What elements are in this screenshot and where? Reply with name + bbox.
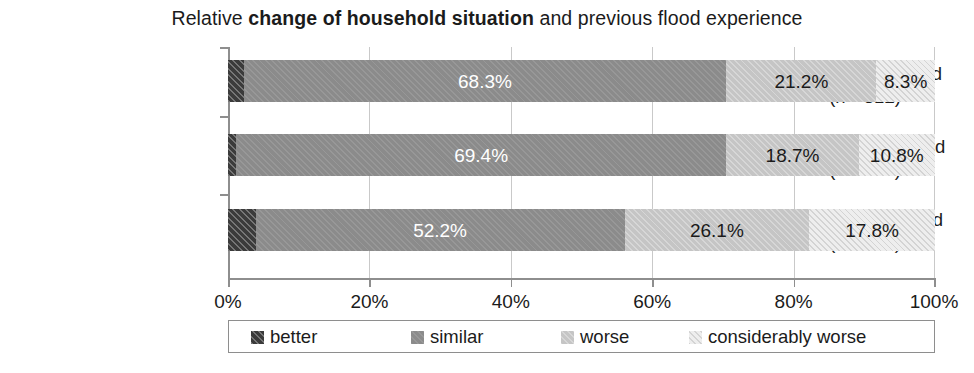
x-axis-tick-100 bbox=[934, 279, 936, 287]
x-axis-tick-40 bbox=[511, 279, 513, 287]
bar-3rd-flood[interactable]: 52.2% 26.1% 17.8% bbox=[228, 209, 935, 251]
y-axis-tick-top bbox=[220, 47, 228, 49]
x-axis-label-80: 80% bbox=[775, 291, 813, 313]
legend-item-worse[interactable]: worse bbox=[561, 328, 629, 347]
bar-2nd-flood[interactable]: 69.4% 18.7% 10.8% bbox=[228, 134, 935, 176]
chart-title-prefix: Relative bbox=[171, 7, 248, 29]
x-axis-line bbox=[228, 278, 936, 280]
legend-label-similar: similar bbox=[430, 328, 483, 347]
bar-3rd-flood-segment-worse[interactable]: 26.1% bbox=[625, 209, 810, 251]
legend-item-better[interactable]: better bbox=[251, 328, 317, 347]
legend-swatch-considerably-worse-icon bbox=[689, 331, 702, 344]
legend-item-similar[interactable]: similar bbox=[411, 328, 483, 347]
bar-2nd-flood-label-considerably-worse: 10.8% bbox=[870, 146, 924, 165]
bar-3rd-flood-segment-considerably-worse[interactable]: 17.8% bbox=[809, 209, 935, 251]
plot-area: 0% 20% 40% 60% 80% 100% 68.3% 21.2% 8.3%… bbox=[228, 47, 935, 279]
legend-swatch-worse-icon bbox=[561, 331, 574, 344]
legend-swatch-similar-icon bbox=[411, 331, 424, 344]
x-axis-label-40: 40% bbox=[492, 291, 530, 313]
bar-2nd-flood-label-similar: 69.4% bbox=[454, 146, 508, 165]
bar-1st-flood-label-similar: 68.3% bbox=[458, 72, 512, 91]
legend-swatch-better-icon bbox=[251, 331, 264, 344]
legend-label-better: better bbox=[270, 328, 317, 347]
x-axis-tick-0 bbox=[228, 279, 230, 287]
x-axis-label-20: 20% bbox=[350, 291, 388, 313]
bar-3rd-flood-label-considerably-worse: 17.8% bbox=[845, 221, 899, 240]
chart-title-suffix: and previous flood experience bbox=[534, 7, 803, 29]
legend-label-worse: worse bbox=[580, 328, 629, 347]
y-axis-tick-2 bbox=[220, 194, 228, 196]
bar-3rd-flood-label-worse: 26.1% bbox=[690, 221, 744, 240]
bar-2nd-flood-segment-considerably-worse[interactable]: 10.8% bbox=[859, 134, 935, 176]
legend-item-considerably-worse[interactable]: considerably worse bbox=[689, 328, 866, 347]
chart-title-emphasis: change of household situation bbox=[248, 7, 534, 29]
bar-1st-flood-label-considerably-worse: 8.3% bbox=[884, 72, 927, 91]
chart-legend: better similar worse considerably worse bbox=[228, 320, 935, 353]
bar-1st-flood-label-worse: 21.2% bbox=[774, 72, 828, 91]
x-axis-label-0: 0% bbox=[214, 291, 241, 313]
x-axis-tick-60 bbox=[652, 279, 654, 287]
x-axis-tick-80 bbox=[794, 279, 796, 287]
bar-2nd-flood-segment-worse[interactable]: 18.7% bbox=[726, 134, 858, 176]
legend-label-considerably-worse: considerably worse bbox=[708, 328, 866, 347]
x-axis-tick-20 bbox=[369, 279, 371, 287]
y-axis-tick-1 bbox=[220, 116, 228, 118]
bar-2nd-flood-label-worse: 18.7% bbox=[766, 146, 820, 165]
chart-title: Relative change of household situation a… bbox=[0, 7, 974, 30]
x-axis-label-100: 100% bbox=[910, 291, 959, 313]
bar-1st-flood-segment-better[interactable] bbox=[228, 60, 244, 102]
bar-1st-flood[interactable]: 68.3% 21.2% 8.3% bbox=[228, 60, 935, 102]
bar-2nd-flood-segment-better[interactable] bbox=[228, 134, 236, 176]
bar-3rd-flood-label-similar: 52.2% bbox=[413, 221, 467, 240]
bar-1st-flood-segment-worse[interactable]: 21.2% bbox=[726, 60, 876, 102]
bar-3rd-flood-segment-similar[interactable]: 52.2% bbox=[256, 209, 625, 251]
bar-3rd-flood-segment-better[interactable] bbox=[228, 209, 256, 251]
bar-1st-flood-segment-similar[interactable]: 68.3% bbox=[244, 60, 727, 102]
x-axis-label-60: 60% bbox=[633, 291, 671, 313]
bar-2nd-flood-segment-similar[interactable]: 69.4% bbox=[236, 134, 727, 176]
bar-1st-flood-segment-considerably-worse[interactable]: 8.3% bbox=[876, 60, 935, 102]
